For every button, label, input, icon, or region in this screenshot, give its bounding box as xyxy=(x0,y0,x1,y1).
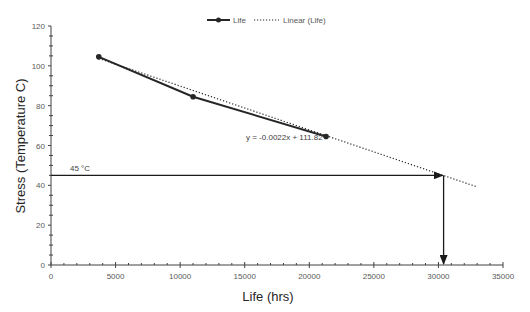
trendline-equation: y = -0.0022x + 111.82 xyxy=(246,133,323,142)
chart-canvas: Life Linear (Life) 020406080100120 05000… xyxy=(0,0,530,312)
temperature-label: 45 °C xyxy=(70,164,90,173)
legend-life-marker-icon xyxy=(216,18,221,23)
x-tick-label: 0 xyxy=(49,272,54,281)
x-tick-label: 30000 xyxy=(427,272,450,281)
legend-life-label: Life xyxy=(233,16,246,25)
series-life xyxy=(96,54,329,139)
x-tick-label: 15000 xyxy=(234,272,257,281)
y-tick-label: 40 xyxy=(36,181,45,190)
data-point xyxy=(96,54,102,60)
data-point xyxy=(190,94,196,100)
y-tick-label: 0 xyxy=(41,261,46,270)
y-tick-label: 20 xyxy=(36,221,45,230)
data-point xyxy=(323,134,329,140)
y-tick-label: 80 xyxy=(36,102,45,111)
x-axis: 05000100001500020000250003000035000 xyxy=(49,262,515,281)
annotation-arrows xyxy=(51,175,444,264)
x-tick-label: 20000 xyxy=(298,272,321,281)
x-tick-label: 35000 xyxy=(492,272,515,281)
legend: Life Linear (Life) xyxy=(207,16,326,25)
y-tick-label: 60 xyxy=(36,142,45,151)
x-axis-title: Life (hrs) xyxy=(242,289,293,304)
y-axis-title: Stress (Temperature C) xyxy=(13,78,28,213)
x-tick-label: 5000 xyxy=(107,272,125,281)
y-tick-label: 100 xyxy=(32,62,46,71)
x-tick-label: 25000 xyxy=(363,272,386,281)
trendline-linear-life xyxy=(99,58,477,186)
y-tick-label: 120 xyxy=(32,22,46,31)
x-tick-label: 10000 xyxy=(169,272,192,281)
legend-linear-label: Linear (Life) xyxy=(283,16,326,25)
y-axis: 020406080100120 xyxy=(32,22,53,270)
